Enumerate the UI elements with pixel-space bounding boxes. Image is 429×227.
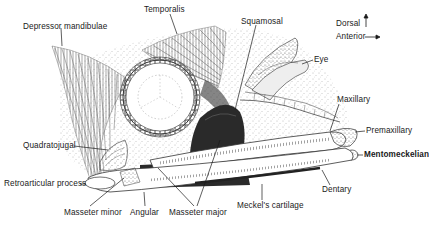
- leader-dentary: [322, 170, 330, 185]
- otic-ring: [120, 57, 200, 137]
- anterior-arrowhead-icon: [376, 35, 380, 39]
- label-masseter-minor: Masseter minor: [64, 209, 122, 217]
- orientation-arrows: [364, 14, 380, 39]
- label-premaxillary: Premaxillary: [366, 127, 412, 135]
- orientation-anterior-label: Anterior: [336, 33, 365, 41]
- label-quadratojugal: Quadratojugal: [23, 142, 76, 150]
- orientation-dorsal-label: Dorsal: [336, 20, 360, 28]
- label-meckels-cartilage: Meckel's cartilage: [237, 202, 304, 210]
- leader-angular: [144, 192, 145, 206]
- label-retroarticular-process: Retroarticular process: [4, 180, 86, 188]
- leader-temporalis: [170, 14, 177, 34]
- label-mentomeckelian: Mentomeckelian: [364, 151, 429, 159]
- label-masseter-major: Masseter major: [169, 209, 227, 217]
- label-squamosal: Squamosal: [241, 18, 283, 26]
- label-angular: Angular: [130, 209, 159, 217]
- label-eye: Eye: [314, 56, 328, 64]
- retroarticular-process: [85, 177, 115, 189]
- dorsal-arrowhead-icon: [364, 14, 368, 18]
- label-dentary: Dentary: [322, 186, 351, 194]
- label-temporalis: Temporalis: [144, 6, 185, 14]
- label-depressor-mandibulae: Depressor mandibulae: [23, 23, 107, 31]
- label-maxillary: Maxillary: [337, 96, 370, 104]
